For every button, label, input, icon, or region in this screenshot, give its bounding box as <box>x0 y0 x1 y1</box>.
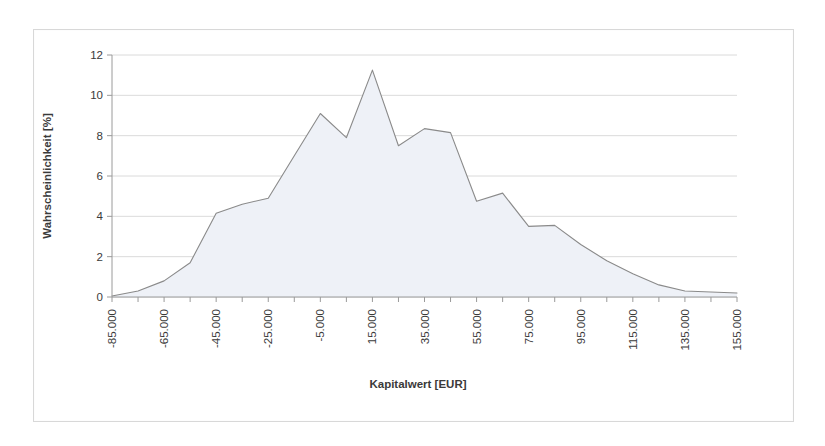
y-tick-label: 6 <box>97 170 103 182</box>
x-axis-title: Kapitalwert [EUR] <box>369 378 466 390</box>
x-tick-label: -65.000 <box>158 309 170 348</box>
y-tick-label: 8 <box>97 130 103 142</box>
x-tick-label: 155.000 <box>731 309 743 351</box>
y-tick-label: 2 <box>97 251 103 263</box>
y-axis-title: Wahrscheinlichkeit [%] <box>41 113 53 239</box>
x-tick-label: 135.000 <box>679 309 691 351</box>
y-tick-label: 4 <box>97 210 104 222</box>
y-axis-ticks: 024681012 <box>90 49 112 303</box>
chart-page: 024681012 -85.000-65.000-45.000-25.000-5… <box>0 0 825 446</box>
x-tick-label: 15.000 <box>366 309 378 344</box>
x-tick-label: 55.000 <box>471 309 483 344</box>
x-tick-label: 95.000 <box>575 309 587 344</box>
y-tick-label: 10 <box>90 89 103 101</box>
x-tick-label: 35.000 <box>419 309 431 344</box>
x-tick-label: -25.000 <box>262 309 274 348</box>
probability-distribution-chart: 024681012 -85.000-65.000-45.000-25.000-5… <box>0 0 825 446</box>
x-tick-label: -5.000 <box>314 309 326 342</box>
x-tick-label: 115.000 <box>627 309 639 350</box>
area-fill <box>112 70 737 297</box>
x-axis-ticks: -85.000-65.000-45.000-25.000-5.00015.000… <box>106 297 743 351</box>
x-tick-label: -85.000 <box>106 309 118 348</box>
y-tick-label: 0 <box>97 291 103 303</box>
x-tick-label: 75.000 <box>523 309 535 344</box>
y-tick-label: 12 <box>90 49 103 61</box>
x-tick-label: -45.000 <box>210 309 222 348</box>
